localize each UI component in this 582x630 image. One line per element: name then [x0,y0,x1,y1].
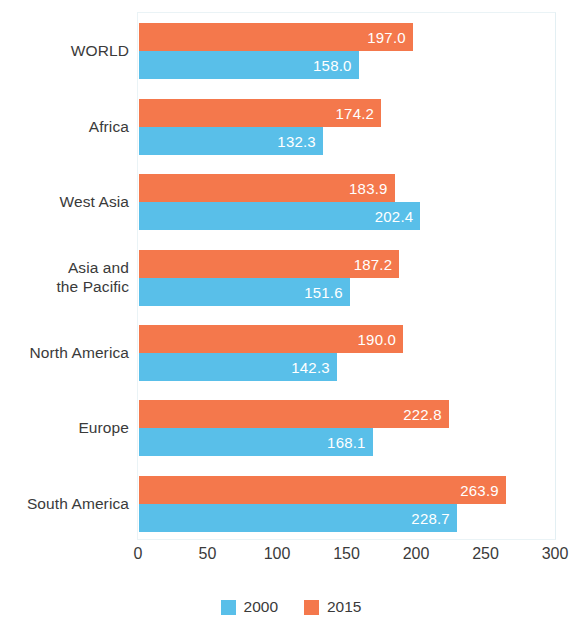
legend-item[interactable]: 2000 [221,598,278,616]
bar-value-label: 151.6 [304,283,343,300]
bar-value-label: 142.3 [291,358,330,375]
bar-2015: 174.2 [139,99,381,127]
x-tick-label: 150 [333,543,360,565]
bar-2015: 263.9 [139,476,506,504]
category-label: WORLD [0,41,129,60]
bar-value-label: 197.0 [367,29,406,46]
bar-2000: 142.3 [139,353,337,381]
bar-value-label: 168.1 [327,434,366,451]
bar-group: 190.0142.3 [138,325,555,382]
category-label: Asia and the Pacific [0,258,129,296]
bar-2015: 187.2 [139,250,399,278]
category-axis-labels: WORLDAfricaWest AsiaAsia and the Pacific… [0,12,129,540]
legend-swatch-icon [304,600,319,615]
category-label: South America [0,494,129,513]
category-label: Europe [0,418,129,437]
bar-group: 263.9228.7 [138,476,555,533]
bar-value-label: 263.9 [460,481,499,498]
bar-group: 197.0158.0 [138,23,555,80]
x-tick-label: 200 [403,543,430,565]
category-label: Africa [0,117,129,136]
bar-2015: 183.9 [139,174,395,202]
bar-value-label: 202.4 [375,208,414,225]
x-tick-label: 300 [542,543,569,565]
category-label: North America [0,343,129,362]
legend-label: 2015 [327,598,361,616]
bar-2000: 228.7 [139,504,457,532]
bar-group: 222.8168.1 [138,400,555,457]
bar-2015: 190.0 [139,325,403,353]
bar-2000: 202.4 [139,202,420,230]
bar-value-label: 187.2 [354,255,393,272]
x-tick-label: 0 [134,543,143,565]
x-tick-label: 50 [199,543,217,565]
bar-group: 183.9202.4 [138,174,555,231]
x-tick-label: 100 [264,543,291,565]
bar-2000: 158.0 [139,51,359,79]
category-label: West Asia [0,192,129,211]
bar-value-label: 228.7 [411,509,450,526]
bar-value-label: 222.8 [403,406,442,423]
bar-value-label: 183.9 [349,180,388,197]
bar-value-label: 174.2 [336,104,375,121]
bar-2000: 151.6 [139,278,350,306]
x-tick-label: 250 [472,543,499,565]
bar-chart: WORLDAfricaWest AsiaAsia and the Pacific… [0,0,582,630]
legend-label: 2000 [244,598,278,616]
bar-group: 187.2151.6 [138,250,555,307]
bar-2015: 222.8 [139,400,449,428]
bar-value-label: 158.0 [313,57,352,74]
legend-item[interactable]: 2015 [304,598,361,616]
bar-value-label: 190.0 [358,330,397,347]
legend-swatch-icon [221,600,236,615]
bar-2000: 168.1 [139,428,373,456]
bar-2015: 197.0 [139,23,413,51]
bar-group: 174.2132.3 [138,99,555,156]
plot-area: 197.0158.0174.2132.3183.9202.4187.2151.6… [137,12,556,540]
x-axis-tick-labels: 050100150200250300 [137,543,556,569]
bar-2000: 132.3 [139,127,323,155]
chart-legend: 20002015 [0,598,582,616]
bar-value-label: 132.3 [277,132,316,149]
